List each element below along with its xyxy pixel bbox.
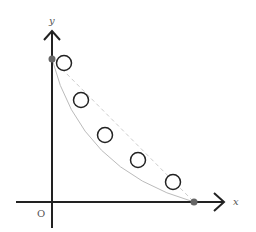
origin-label: O	[37, 208, 45, 219]
circle-marker-5	[166, 175, 181, 190]
circle-marker-4	[131, 153, 146, 168]
y-intercept-dot	[49, 56, 56, 63]
diagram-canvas: y x O	[0, 0, 256, 232]
circle-marker-3	[98, 128, 113, 143]
y-axis-label: y	[48, 15, 55, 26]
circle-marker-2	[74, 93, 89, 108]
x-intercept-dot	[191, 199, 198, 206]
circle-marker-1	[57, 56, 72, 71]
x-axis-label: x	[233, 196, 239, 207]
